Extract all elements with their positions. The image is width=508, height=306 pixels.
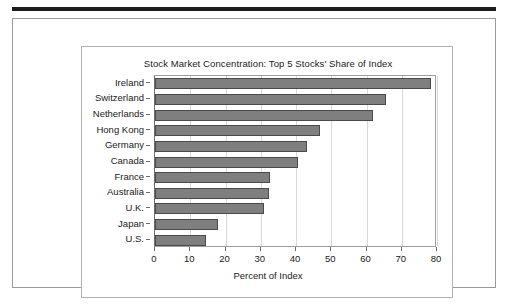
bar	[155, 172, 270, 183]
bar-row	[155, 141, 437, 152]
x-axis-tick	[154, 247, 155, 251]
chart-title: Stock Market Concentration: Top 5 Stocks…	[82, 58, 454, 69]
bar-row	[155, 78, 437, 89]
y-axis-tick	[146, 161, 150, 162]
bar	[155, 235, 206, 246]
x-axis-tick	[189, 247, 190, 251]
y-axis-label: Ireland	[115, 77, 144, 88]
y-axis-tick	[146, 239, 150, 240]
bar-row	[155, 110, 437, 121]
x-axis-tick-label: 0	[151, 253, 156, 264]
bar	[155, 188, 269, 199]
bar-row	[155, 157, 437, 168]
y-axis-label: Hong Kong	[96, 124, 144, 135]
bar	[155, 157, 298, 168]
top-rule-divider	[12, 7, 496, 11]
bar-row	[155, 172, 437, 183]
x-axis-tick	[260, 247, 261, 251]
y-axis-label: Japan	[118, 218, 144, 229]
y-axis-label: France	[114, 171, 144, 182]
x-axis-tick	[225, 247, 226, 251]
y-axis-label: Netherlands	[93, 108, 144, 119]
x-axis-tick-label: 20	[219, 253, 230, 264]
y-axis-tick	[146, 82, 150, 83]
bar	[155, 94, 386, 105]
figure-outer-frame: Stock Market Concentration: Top 5 Stocks…	[12, 18, 496, 288]
x-axis-tick-labels: 01020304050607080	[154, 253, 436, 267]
x-axis-tick-label: 10	[184, 253, 195, 264]
x-axis-title: Percent of Index	[82, 270, 454, 281]
x-axis-tick-label: 70	[395, 253, 406, 264]
y-axis-tick	[146, 176, 150, 177]
bar-row	[155, 125, 437, 136]
bar-row	[155, 94, 437, 105]
y-axis-label: U.K.	[126, 202, 144, 213]
x-axis-tick	[401, 247, 402, 251]
bar-row	[155, 235, 437, 246]
y-axis-tick	[146, 114, 150, 115]
x-axis-tick	[330, 247, 331, 251]
x-axis-tick-label: 30	[254, 253, 265, 264]
x-axis-tick-label: 60	[360, 253, 371, 264]
bar	[155, 110, 373, 121]
bar-row	[155, 219, 437, 230]
chart-container: Stock Market Concentration: Top 5 Stocks…	[81, 46, 453, 298]
y-axis-tick	[146, 192, 150, 193]
bar-row	[155, 203, 437, 214]
y-axis-label: U.S.	[126, 233, 144, 244]
y-axis-tick	[146, 98, 150, 99]
chart-page: Stock Market Concentration: Top 5 Stocks…	[0, 0, 508, 306]
bar	[155, 78, 431, 89]
bar	[155, 219, 218, 230]
x-axis-tick-label: 40	[290, 253, 301, 264]
bar-row	[155, 188, 437, 199]
y-axis-category-labels: IrelandSwitzerlandNetherlandsHong KongGe…	[82, 75, 150, 247]
bar	[155, 141, 307, 152]
y-axis-label: Canada	[111, 155, 144, 166]
bar	[155, 203, 264, 214]
x-axis-tick-label: 80	[431, 253, 442, 264]
gridline	[437, 76, 438, 246]
y-axis-tick	[146, 129, 150, 130]
x-axis-ticks	[154, 247, 436, 252]
x-axis-tick-label: 50	[325, 253, 336, 264]
x-axis-tick	[366, 247, 367, 251]
bar	[155, 125, 320, 136]
x-axis-tick	[436, 247, 437, 251]
y-axis-tick	[146, 223, 150, 224]
x-axis-tick	[295, 247, 296, 251]
plot-area	[154, 75, 436, 247]
y-axis-tick	[146, 207, 150, 208]
y-axis-tick	[146, 145, 150, 146]
y-axis-label: Australia	[107, 186, 144, 197]
y-axis-label: Germany	[105, 139, 144, 150]
y-axis-label: Switzerland	[95, 92, 144, 103]
